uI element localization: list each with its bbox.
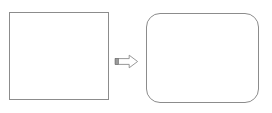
diagram-canvas (0, 0, 272, 113)
arrow-tail-marker (115, 59, 118, 65)
right-block-arrow-icon (114, 54, 139, 69)
source-square-shape[interactable] (9, 12, 109, 100)
transform-arrow[interactable] (114, 54, 139, 69)
target-rounded-rectangle-shape[interactable] (146, 13, 259, 103)
